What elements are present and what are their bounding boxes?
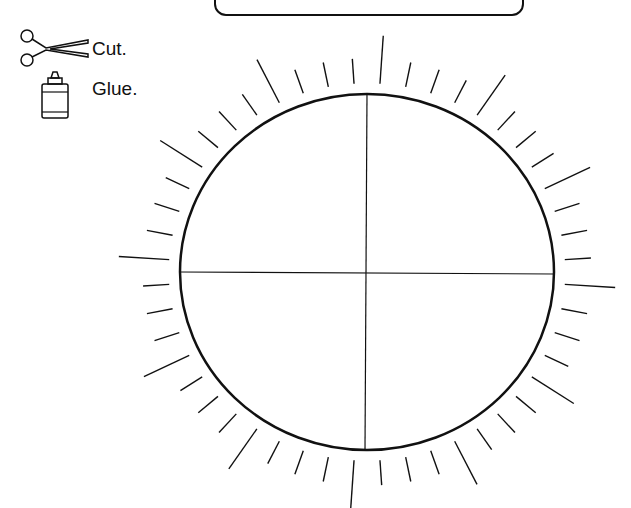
sun-ray — [155, 203, 180, 211]
sun-ray — [166, 178, 189, 189]
sun-ray — [455, 441, 477, 484]
vertical-divider — [365, 94, 367, 450]
sun-ray — [147, 230, 173, 235]
sun-ray — [143, 284, 169, 286]
sun-ray — [257, 60, 279, 103]
sun-ray — [532, 153, 554, 167]
sun-ray — [352, 59, 354, 84]
sun-ray — [561, 230, 587, 235]
sun-ray — [431, 70, 439, 94]
sun-ray — [219, 111, 236, 130]
sun-ray — [406, 63, 411, 87]
sun-ray — [477, 429, 492, 450]
sun-ray — [498, 414, 515, 433]
sun-ray — [160, 140, 202, 167]
sun-ray — [516, 396, 536, 412]
sun-ray — [323, 457, 328, 481]
sun-ray — [229, 429, 257, 469]
sun-ray — [198, 131, 218, 147]
sun-ray — [144, 355, 189, 376]
sun-diagram — [0, 0, 631, 508]
sun-ray — [555, 333, 580, 341]
sun-ray — [380, 36, 383, 84]
sun-ray — [498, 111, 515, 130]
sun-ray — [180, 377, 202, 391]
sun-ray — [323, 63, 328, 87]
sun-ray — [295, 451, 303, 475]
sun-ray — [268, 441, 280, 463]
sun-ray — [545, 167, 590, 188]
sun-ray — [219, 414, 236, 433]
sun-ray — [532, 377, 574, 404]
horizontal-divider — [180, 272, 554, 274]
sun-ray — [155, 333, 180, 341]
sun-ray — [380, 460, 382, 485]
sun-ray — [198, 396, 218, 412]
sun-ray — [555, 203, 580, 211]
sun-ray — [295, 70, 303, 94]
sun-ray — [455, 80, 467, 102]
sun-ray — [565, 284, 615, 287]
sun-ray — [119, 257, 169, 260]
sun-ray — [147, 309, 173, 314]
sun-ray — [242, 94, 257, 115]
sun-ray — [565, 258, 591, 260]
sun-ray — [561, 309, 587, 314]
sun-ray — [351, 460, 354, 508]
sun-ray — [431, 451, 439, 475]
sun-ray — [477, 75, 505, 115]
sun-ray — [516, 131, 536, 147]
sun-ray — [545, 355, 568, 366]
sun-ray — [406, 457, 411, 481]
